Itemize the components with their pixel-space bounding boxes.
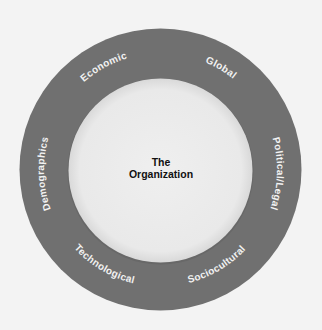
environment-diagram: Demographics Economic Global Political/L… [0, 0, 322, 330]
center-title-line1: The [152, 156, 171, 168]
center-title-line2: Organization [129, 168, 193, 180]
